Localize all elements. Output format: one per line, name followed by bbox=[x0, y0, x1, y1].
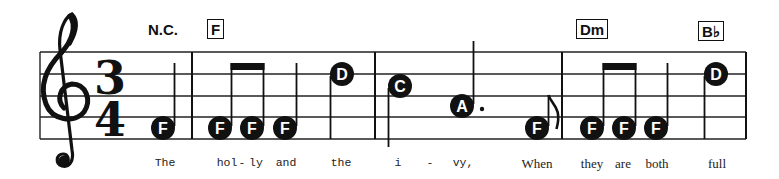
lyric-syllable: and bbox=[276, 156, 297, 169]
note-f: F bbox=[151, 116, 175, 140]
note-letter: F bbox=[158, 120, 168, 137]
lyric-syllable: i bbox=[395, 156, 402, 169]
music-staff: 3 4 FFFFDCAFFFFD bbox=[0, 0, 779, 179]
note-letter: F bbox=[247, 120, 257, 137]
beam bbox=[603, 63, 637, 70]
note-f: F bbox=[525, 116, 549, 140]
note-f: F bbox=[580, 116, 604, 140]
note-letter: F bbox=[587, 120, 597, 137]
time-signature-denominator: 4 bbox=[94, 93, 126, 147]
time-signature: 3 4 bbox=[94, 51, 126, 147]
treble-clef-icon bbox=[43, 14, 87, 167]
lyric-syllable: vy, bbox=[453, 156, 474, 169]
note-d: D bbox=[330, 62, 354, 86]
note-c: C bbox=[388, 74, 412, 98]
note-d: D bbox=[704, 62, 728, 86]
note-letter: F bbox=[215, 120, 225, 137]
lyric-syllable: are bbox=[615, 156, 631, 172]
note-letter: F bbox=[532, 120, 542, 137]
lyric-syllable: - bbox=[427, 156, 434, 169]
lyric-syllable: The bbox=[155, 156, 176, 169]
chord-symbol: B♭ bbox=[698, 21, 724, 41]
note-f: F bbox=[612, 116, 636, 140]
note-letter: D bbox=[336, 66, 348, 83]
eighth-flag-icon bbox=[549, 95, 559, 129]
dot-icon bbox=[480, 107, 484, 111]
lyric-syllable: hol bbox=[217, 156, 238, 169]
note-letter: C bbox=[394, 78, 406, 95]
lyric-syllable: ly bbox=[249, 156, 263, 169]
lyric-syllable: full bbox=[708, 156, 726, 172]
note-f: F bbox=[208, 116, 232, 140]
note-f: F bbox=[644, 116, 668, 140]
note-f: F bbox=[240, 116, 264, 140]
note-letter: D bbox=[710, 66, 722, 83]
lyric-syllable: When bbox=[521, 156, 552, 172]
beam bbox=[231, 63, 265, 70]
chord-symbol: N.C. bbox=[148, 22, 178, 37]
chord-symbol: Dm bbox=[576, 19, 608, 39]
lyric-syllable: - bbox=[239, 156, 246, 169]
lyric-syllable: the bbox=[331, 156, 352, 169]
note-f: F bbox=[273, 116, 297, 140]
note-letter: F bbox=[651, 120, 661, 137]
note-letter: F bbox=[619, 120, 629, 137]
lyric-syllable: they bbox=[581, 156, 603, 172]
note-letter: A bbox=[456, 98, 468, 115]
lyric-syllable: both bbox=[645, 156, 668, 172]
note-a: A bbox=[450, 94, 484, 118]
note-letter: F bbox=[280, 120, 290, 137]
beams bbox=[231, 63, 637, 70]
chord-symbol: F bbox=[207, 19, 224, 39]
